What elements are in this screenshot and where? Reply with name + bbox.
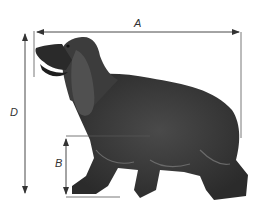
label-a: A — [134, 18, 141, 29]
dog-photo — [35, 37, 248, 200]
dog-dimension-diagram: A D B — [0, 0, 265, 215]
label-d: D — [10, 107, 18, 118]
diagram-svg — [0, 0, 265, 215]
label-b: B — [55, 158, 62, 169]
